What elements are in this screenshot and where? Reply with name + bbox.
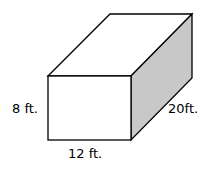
height-label: 8 ft. [12, 101, 38, 116]
prism-diagram: 8 ft. 20ft. 12 ft. [0, 0, 210, 170]
depth-label: 20ft. [168, 101, 198, 116]
front-face [48, 76, 131, 140]
width-label: 12 ft. [68, 146, 102, 161]
prism-drawing [0, 0, 210, 170]
